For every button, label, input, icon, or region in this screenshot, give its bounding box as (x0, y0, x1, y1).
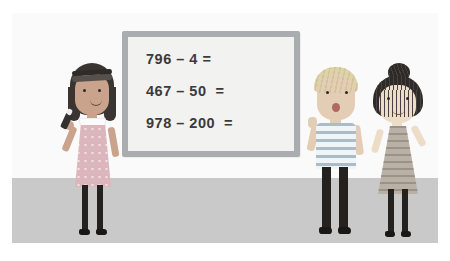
leg-left (82, 185, 88, 233)
eye-left (326, 91, 329, 94)
arm-right (410, 125, 427, 148)
equation-list: 796 – 4 = 467 – 50 = 978 – 200 = (146, 51, 288, 145)
eye-right (406, 97, 409, 100)
dress-chevron-pattern (378, 126, 418, 194)
eye-right (98, 89, 101, 92)
mouth (332, 103, 340, 112)
dress-dot-pattern (75, 125, 111, 187)
shoe-right (401, 231, 411, 237)
equation-line-3: 978 – 200 = (146, 115, 288, 131)
eye-left (83, 89, 86, 92)
leg-right (339, 167, 348, 231)
leg-left (388, 189, 394, 235)
whiteboard-surface: 796 – 4 = 467 – 50 = 978 – 200 = (128, 37, 294, 151)
character-girl-left (54, 63, 132, 243)
shirt-stripe-pattern (316, 123, 356, 169)
shoe-left (385, 231, 395, 237)
shoe-right (96, 229, 107, 235)
illustration-scene: 796 – 4 = 467 – 50 = 978 – 200 = (12, 13, 438, 243)
eye-left (387, 97, 390, 100)
character-boy-middle (308, 67, 368, 243)
shoe-left (79, 229, 90, 235)
whiteboard: 796 – 4 = 467 – 50 = 978 – 200 = (122, 31, 300, 157)
arm-right (107, 127, 119, 158)
hair-texture (314, 67, 358, 93)
equation-line-2: 467 – 50 = (146, 83, 288, 99)
eye-right (345, 91, 348, 94)
character-girl-right (361, 63, 433, 243)
shoe-right (338, 227, 351, 234)
leg-left (322, 167, 331, 231)
equation-line-1: 796 – 4 = (146, 51, 288, 67)
leg-right (402, 189, 408, 235)
leg-right (97, 185, 103, 233)
shoe-left (319, 227, 332, 234)
arm-left (371, 129, 384, 154)
